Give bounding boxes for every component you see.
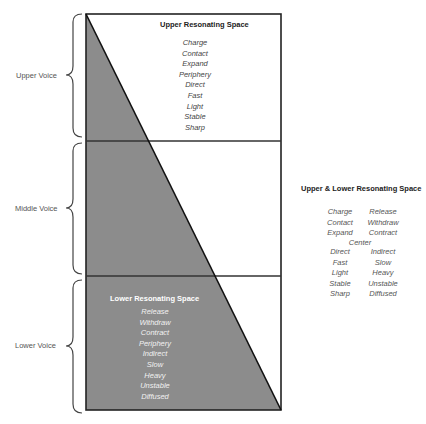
- list-item: Light: [320, 268, 360, 279]
- combined-right-list-2: IndirectSlowHeavyUnstableDiffused: [363, 247, 403, 300]
- list-item: Stable: [170, 112, 220, 123]
- upper-voice-label: Upper Voice: [16, 71, 57, 80]
- list-item: Fast: [320, 258, 360, 269]
- list-item: Direct: [320, 247, 360, 258]
- list-item: Slow: [363, 258, 403, 269]
- list-item: Indirect: [363, 247, 403, 258]
- list-item: Release: [125, 307, 185, 318]
- list-item: Charge: [170, 38, 220, 49]
- list-item: Expand: [170, 59, 220, 70]
- list-item: Sharp: [170, 123, 220, 134]
- list-item: Heavy: [363, 268, 403, 279]
- list-item: Fast: [170, 91, 220, 102]
- list-item: Direct: [170, 80, 220, 91]
- list-item: Unstable: [363, 279, 403, 290]
- brace-icons: [66, 14, 82, 413]
- combined-left-list: ChargeContactExpand: [320, 207, 360, 239]
- list-item: Diffused: [125, 392, 185, 403]
- list-item: Unstable: [125, 381, 185, 392]
- lower-voice-label: Lower Voice: [15, 341, 56, 350]
- list-item: Periphery: [170, 70, 220, 81]
- list-item: Contact: [320, 218, 360, 229]
- list-item: Light: [170, 102, 220, 113]
- list-item: Stable: [320, 279, 360, 290]
- combined-space-title: Upper & Lower Resonating Space: [301, 184, 421, 193]
- middle-voice-label: Middle Voice: [15, 204, 58, 213]
- list-item: Periphery: [125, 339, 185, 350]
- list-item: Contract: [125, 328, 185, 339]
- combined-right-list: ReleaseWithdrawContract: [363, 207, 403, 239]
- list-item: Contact: [170, 49, 220, 60]
- list-item: Diffused: [363, 289, 403, 300]
- list-item: Heavy: [125, 371, 185, 382]
- upper-space-title: Upper Resonating Space: [160, 20, 249, 29]
- list-item: Charge: [320, 207, 360, 218]
- list-item: Indirect: [125, 349, 185, 360]
- upper-space-list: ChargeContactExpandPeripheryDirectFastLi…: [170, 38, 220, 133]
- list-item: Withdraw: [125, 318, 185, 329]
- combined-left-list-2: DirectFastLightStableSharp: [320, 247, 360, 300]
- list-item: Release: [363, 207, 403, 218]
- lower-space-list: ReleaseWithdrawContractPeripheryIndirect…: [125, 307, 185, 402]
- lower-space-title: Lower Resonating Space: [110, 294, 199, 303]
- list-item: Slow: [125, 360, 185, 371]
- list-item: Withdraw: [363, 218, 403, 229]
- list-item: Sharp: [320, 289, 360, 300]
